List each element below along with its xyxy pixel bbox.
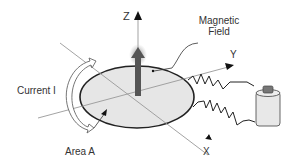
y-arrowhead-icon xyxy=(225,63,234,70)
field-pointer-line xyxy=(154,43,198,71)
magnetic-field-label-line2: Field xyxy=(186,26,252,37)
x-arrowhead-icon-solid xyxy=(206,134,211,139)
field-pointer-dot xyxy=(152,70,154,72)
diagram-canvas xyxy=(0,0,298,165)
battery-icon xyxy=(256,86,280,126)
wire-top xyxy=(188,74,254,89)
current-label: Current I xyxy=(17,85,56,96)
y-axis-label: Y xyxy=(230,49,237,60)
wire-bottom xyxy=(193,100,255,125)
magnetic-field-arrow-shaft xyxy=(135,56,141,96)
magnetic-field-label: Magnetic Field xyxy=(186,15,252,37)
area-label: Area A xyxy=(65,146,95,157)
z-axis-label: Z xyxy=(123,11,130,22)
z-arrowhead-icon xyxy=(134,11,142,20)
magnetic-field-label-line1: Magnetic xyxy=(186,15,252,26)
x-axis-label: X xyxy=(203,146,210,157)
